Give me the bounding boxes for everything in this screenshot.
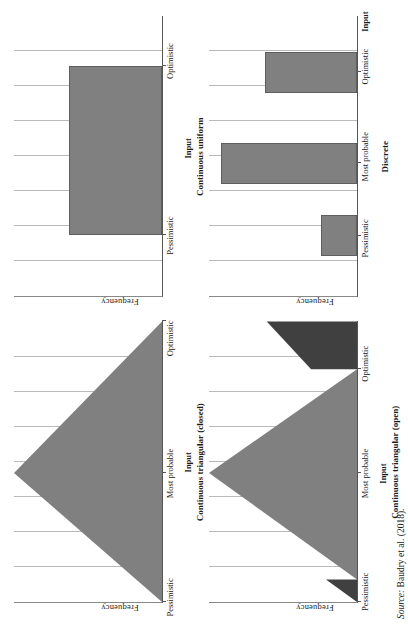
y-axis-label: Frequency [280, 603, 334, 615]
panel-continuous-triangular-closed: Frequency [14, 316, 209, 622]
x-tick-label-most-probable: Most probable [360, 132, 370, 181]
x-axis-title: Input [183, 452, 193, 472]
plot-area [209, 322, 358, 604]
triangle-light [209, 369, 357, 579]
figure-rotation-wrapper: Frequency [0, 0, 408, 633]
plot-column: Pessimistic Optimistic Input Continuous … [14, 16, 209, 298]
bar-pessimistic [321, 215, 357, 256]
bar-optimistic [265, 52, 357, 93]
x-tick-label-pessimistic: Pessimistic [165, 216, 175, 254]
plot-area [209, 16, 358, 298]
source-caption: Source: Baudry et al. (2018). [396, 509, 406, 619]
x-tick-label-optimistic: Optimistic [165, 43, 175, 79]
x-tick-label-pessimistic: Pessimistic [165, 578, 175, 616]
plot-column: Pessimistic Most probable Optimistic Inp… [209, 16, 404, 298]
uniform-block-shape [69, 67, 162, 235]
panel-row-bottom: Frequency [209, 10, 404, 621]
panel-caption: Continuous triangular (closed) [195, 322, 205, 604]
y-axis-label: Frequency [85, 298, 139, 310]
figure-probability-distributions: Frequency [0, 0, 408, 633]
panel-continuous-uniform: Frequency Pessimistic Optimistic Input [14, 10, 209, 316]
source-text: Baudry et al. (2018). [396, 509, 406, 588]
plot-area [14, 16, 163, 298]
y-axis-label: Frequency [85, 603, 139, 615]
x-axis-title: Input [183, 138, 193, 158]
x-tick-label-most-probable: Most probable [165, 449, 175, 498]
source-label: Source: [396, 590, 406, 619]
x-axis: Pessimistic Most probable Optimistic Inp… [163, 322, 209, 604]
x-tick-label-pessimistic: Pessimistic [360, 573, 370, 611]
y-axis-label: Frequency [280, 298, 334, 310]
triangle-shape-light [14, 322, 162, 603]
tail-dark-pessimistic [326, 580, 357, 602]
x-tick-label-optimistic: Optimistic [165, 320, 175, 356]
tail-dark-optimistic [267, 322, 357, 370]
x-axis: Pessimistic Most probable Optimistic Inp… [358, 16, 404, 298]
plot-area [14, 322, 163, 604]
x-tick-label-optimistic: Optimistic [360, 346, 370, 382]
panel-caption: Discrete [380, 16, 390, 298]
panel-discrete: Frequency Pessimistic Most pro [209, 10, 404, 316]
x-axis-title: Input [378, 463, 388, 483]
x-axis-title: Input [360, 11, 370, 31]
plot-column: Pessimistic Most probable Optimistic Inp… [14, 322, 209, 604]
x-tick-label-optimistic: Optimistic [360, 49, 370, 85]
panel-continuous-triangular-open: Frequency [209, 316, 404, 622]
triangle-shape-open [209, 322, 357, 603]
plot-column: Pessimistic Most probable Optimistic Inp… [209, 322, 404, 604]
x-tick-label-pessimistic: Pessimistic [360, 219, 370, 257]
x-tick-label-most-probable: Most probable [360, 449, 370, 498]
panel-caption: Continuous uniform [195, 16, 205, 298]
x-axis: Pessimistic Optimistic Input Continuous … [163, 16, 209, 298]
panel-row-top: Frequency [14, 10, 209, 621]
bar-most-probable [221, 143, 357, 184]
